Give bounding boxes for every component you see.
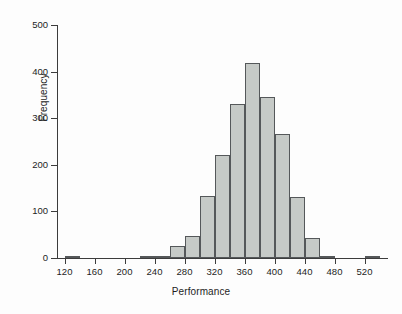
histogram-bar xyxy=(155,256,170,258)
histogram-bar xyxy=(170,246,185,258)
histogram-bar xyxy=(320,256,335,258)
y-tick-label: 200 xyxy=(8,160,48,169)
x-tick-mark xyxy=(125,259,126,264)
histogram-bar xyxy=(305,238,320,258)
plot-area xyxy=(57,25,387,258)
y-axis-label: Frequency xyxy=(38,33,49,163)
y-tick-label: 300 xyxy=(8,113,48,122)
x-tick-mark xyxy=(365,259,366,264)
y-tick-label: 0 xyxy=(8,253,48,262)
y-tick-label: 500 xyxy=(8,20,48,29)
histogram-bar xyxy=(200,196,215,258)
x-tick-mark xyxy=(95,259,96,264)
x-tick-mark xyxy=(305,259,306,264)
x-tick-mark xyxy=(275,259,276,264)
y-tick-label: 400 xyxy=(8,67,48,76)
histogram-bar xyxy=(245,63,260,258)
x-axis-line xyxy=(57,258,388,259)
histogram-figure: Frequency 0100200300400500 1201602002402… xyxy=(0,0,402,314)
x-tick-label: 520 xyxy=(345,266,385,277)
histogram-bar xyxy=(65,256,80,258)
histogram-bar xyxy=(140,256,155,258)
histogram-bar xyxy=(215,155,230,258)
histogram-bar xyxy=(230,104,245,258)
y-tick-label: 100 xyxy=(8,206,48,215)
histogram-bar xyxy=(275,134,290,258)
x-tick-mark xyxy=(155,259,156,264)
x-axis-label: Performance xyxy=(0,286,402,297)
histogram-bar xyxy=(290,197,305,258)
x-tick-mark xyxy=(335,259,336,264)
x-tick-mark xyxy=(185,259,186,264)
histogram-bar xyxy=(185,236,200,258)
x-tick-mark xyxy=(65,259,66,264)
x-tick-mark xyxy=(215,259,216,264)
histogram-bar xyxy=(365,256,380,258)
x-tick-mark xyxy=(245,259,246,264)
histogram-bar xyxy=(260,97,275,258)
y-tick-mark xyxy=(51,258,57,259)
